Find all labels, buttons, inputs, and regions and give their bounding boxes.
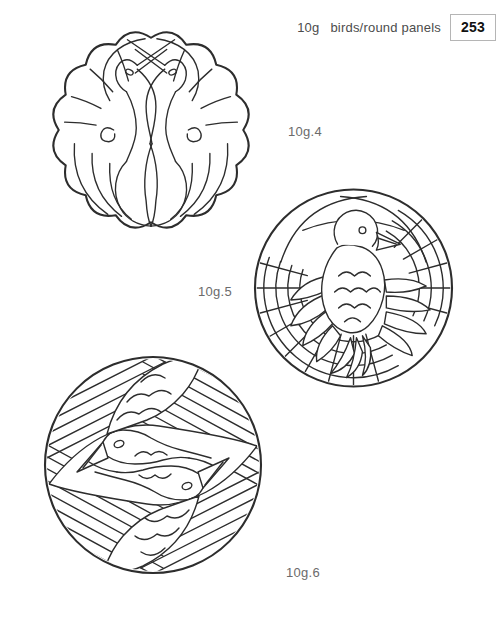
figure-label-10g5: 10g.5	[198, 284, 232, 299]
figure-label-10g4: 10g.4	[288, 124, 322, 139]
section-title: birds/round panels	[330, 20, 441, 35]
crane-pair-crest-illustration	[33, 24, 269, 236]
page-number-box: 253	[450, 14, 496, 41]
two-birds-panel-illustration	[39, 352, 267, 578]
figure-label-10g6: 10g.6	[286, 565, 320, 580]
page-header: 10g birds/round panels 253	[297, 14, 496, 41]
dove-panel-illustration	[251, 184, 456, 392]
section-number: 10g	[297, 20, 319, 35]
